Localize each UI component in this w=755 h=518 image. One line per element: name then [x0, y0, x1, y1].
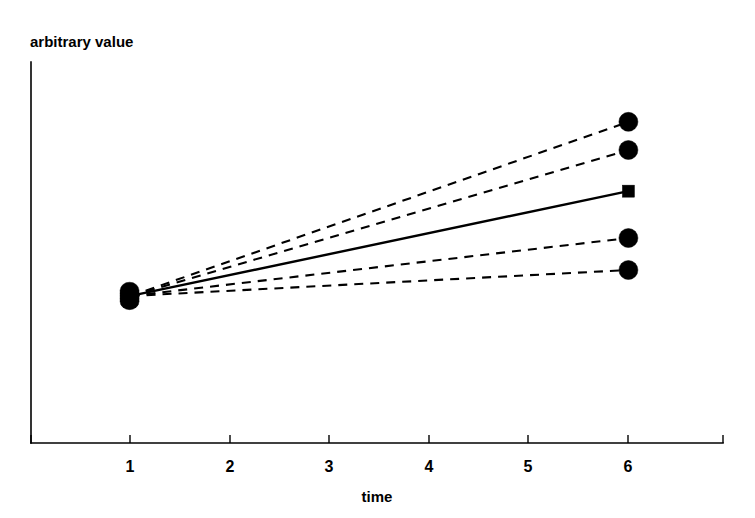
- end-marker-series-1: [619, 112, 638, 131]
- chart-figure: arbitrary value 1 2 3 4 5 6 time: [0, 0, 755, 518]
- x-tick-label-3: 3: [325, 458, 334, 475]
- x-tick-label-2: 2: [226, 458, 235, 475]
- end-marker-series-5: [619, 261, 638, 280]
- end-marker-series-3: [622, 185, 634, 197]
- x-axis-tick-labels: 1 2 3 4 5 6: [126, 458, 633, 475]
- start-marker-series-5: [120, 293, 139, 310]
- x-tick-label-1: 1: [126, 458, 135, 475]
- x-tick-label-6: 6: [624, 458, 633, 475]
- series-line-5: [131, 270, 629, 296]
- x-tick-label-5: 5: [524, 458, 533, 475]
- x-tick-label-4: 4: [425, 458, 434, 475]
- x-axis-ticks: [130, 435, 628, 443]
- end-marker-series-2: [619, 141, 638, 160]
- series-line-1: [131, 122, 629, 296]
- line-chart-svg: arbitrary value 1 2 3 4 5 6 time: [0, 0, 755, 518]
- series-line-4: [131, 238, 629, 296]
- series-lines-group: [131, 122, 629, 296]
- end-marker-series-4: [619, 229, 638, 248]
- y-axis-title: arbitrary value: [30, 33, 133, 50]
- series-markers-group: [120, 112, 638, 309]
- x-axis-title: time: [362, 488, 393, 505]
- series-line-3: [131, 191, 629, 296]
